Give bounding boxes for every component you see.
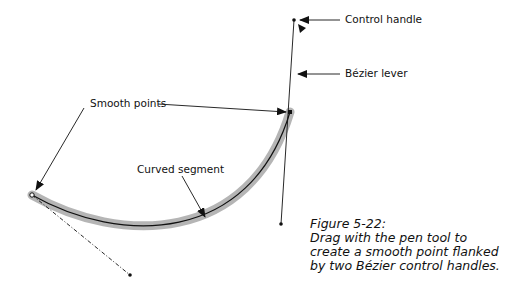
label-bezier-lever: Bézier lever: [345, 67, 408, 79]
control-handle-bottom-right: [279, 222, 283, 226]
smooth-point-left: [30, 193, 34, 197]
caption-line: by two Bézier control handles.: [310, 259, 500, 273]
pen-cursor-icon: [298, 24, 306, 33]
caption-title: Figure 5-22:: [310, 217, 500, 231]
caption-line: create a smooth point flanked: [310, 245, 500, 259]
smooth-point-right: [288, 110, 292, 114]
figure-caption: Figure 5-22: Drag with the pen tool to c…: [310, 217, 500, 273]
label-curved-segment: Curved segment: [137, 163, 224, 175]
bezier-lever-left: [32, 195, 130, 275]
caption-line: Drag with the pen tool to: [310, 231, 500, 245]
control-handle-top: [292, 18, 296, 22]
label-control-handle: Control handle: [345, 13, 422, 25]
control-handle-bottom-left: [128, 273, 132, 277]
label-smooth-points: Smooth points: [90, 97, 166, 109]
